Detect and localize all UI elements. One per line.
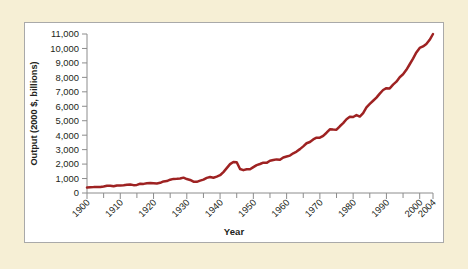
x-tick-label: 1930 xyxy=(169,197,192,220)
y-tick-label: 9,000 xyxy=(56,57,79,68)
x-tick-label: 1910 xyxy=(103,197,126,220)
x-tick-label: 1990 xyxy=(369,197,392,220)
y-tick-label: 3,000 xyxy=(56,144,79,155)
x-tick-label: 1920 xyxy=(136,197,159,220)
y-tick-label: 2,000 xyxy=(56,158,79,169)
y-axis-title: Output (2000 $, billions) xyxy=(29,61,39,165)
x-tick-label: 1980 xyxy=(336,197,359,220)
y-tick-label: 10,000 xyxy=(50,43,79,54)
x-tick-label: 1950 xyxy=(236,197,259,220)
data-series-group xyxy=(87,34,433,188)
y-tick-label: 11,000 xyxy=(51,28,79,39)
y-tick-label: 0 xyxy=(74,187,79,198)
figure-canvas: 01,0002,0003,0004,0005,0006,0007,0008,00… xyxy=(0,0,468,269)
y-tick-label: 8,000 xyxy=(56,72,79,83)
x-tick-label: 1900 xyxy=(69,197,92,220)
chart-panel: 01,0002,0003,0004,0005,0006,0007,0008,00… xyxy=(24,22,444,243)
y-tick-label: 7,000 xyxy=(56,86,79,97)
y-axis: 01,0002,0003,0004,0005,0006,0007,0008,00… xyxy=(29,28,87,198)
x-axis-title: Year xyxy=(224,226,245,237)
x-tick-label: 1960 xyxy=(269,197,292,220)
y-tick-label: 6,000 xyxy=(56,101,79,112)
x-axis: 1900191019201930194019501960197019801990… xyxy=(69,193,438,219)
x-tick-label: 1940 xyxy=(202,197,225,220)
y-tick-label: 5,000 xyxy=(56,115,79,126)
x-tick-label: 1970 xyxy=(302,197,325,220)
y-tick-label: 1,000 xyxy=(56,173,79,184)
y-tick-label: 4,000 xyxy=(56,130,79,141)
series-line-real-gdp xyxy=(87,34,433,188)
line-chart: 01,0002,0003,0004,0005,0006,0007,0008,00… xyxy=(25,23,443,242)
